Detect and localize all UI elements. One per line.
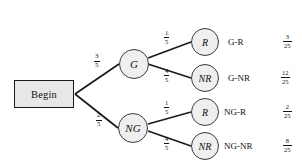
node-ng: NG [118, 113, 148, 143]
outcome-label-g-r: G-R [228, 37, 244, 47]
branch-prob-begin-g-den: 5 [94, 61, 100, 70]
begin-node-label: Begin [31, 89, 57, 100]
branch-prob-begin-ng: 2 5 [96, 112, 102, 128]
outcome-prob-g-nr-num: 12 [281, 70, 290, 77]
node-ng-nr: NR [191, 132, 219, 160]
begin-node: Begin [14, 80, 74, 108]
branch-prob-ng-nr-num: 4 [164, 136, 169, 143]
branch-prob-g-r-num: 1 [164, 30, 169, 37]
branch-prob-begin-ng-den: 5 [96, 120, 102, 129]
outcome-prob-ng-r-num: 2 [285, 104, 290, 111]
outcome-label-g-nr: G-NR [228, 73, 250, 83]
outcome-prob-g-r: 3 25 [283, 34, 292, 49]
outcome-prob-g-nr-den: 25 [281, 77, 290, 85]
branch-prob-ng-r-num: 1 [164, 100, 169, 107]
node-g-r-label: R [202, 37, 208, 48]
outcome-prob-g-nr: 12 25 [281, 70, 290, 85]
outcome-prob-ng-nr-num: 8 [285, 138, 290, 145]
node-g: G [119, 49, 149, 79]
node-g-r: R [191, 28, 219, 56]
outcome-prob-ng-nr-den: 25 [283, 145, 292, 153]
node-ng-r-label: R [202, 107, 208, 118]
edge-ng-nr [148, 131, 191, 146]
outcome-label-ng-nr: NG-NR [224, 141, 253, 151]
node-g-nr: NR [191, 64, 219, 92]
edge-g-r [148, 42, 191, 58]
node-ng-label: NG [125, 122, 140, 134]
outcome-prob-ng-r-den: 25 [283, 111, 292, 119]
branch-prob-begin-g-num: 3 [94, 53, 100, 60]
outcome-prob-g-r-den: 25 [283, 41, 292, 49]
branch-prob-ng-nr: 4 5 [164, 136, 169, 151]
branch-prob-ng-nr-den: 5 [164, 143, 169, 151]
outcome-prob-ng-r: 2 25 [283, 104, 292, 119]
branch-prob-g-nr-num: 4 [164, 68, 169, 75]
edge-ng-r [148, 112, 191, 124]
node-g-label: G [130, 58, 138, 70]
branch-prob-ng-r-den: 5 [164, 107, 169, 115]
branch-prob-ng-r: 1 5 [164, 100, 169, 115]
outcome-label-ng-r: NG-R [224, 107, 246, 117]
branch-prob-begin-g: 3 5 [94, 53, 100, 69]
tree-diagram: Begin G NG R NR R NR 3 5 2 5 1 5 4 5 1 5… [0, 0, 302, 164]
branch-prob-g-r: 1 5 [164, 30, 169, 45]
edge-g-nr [148, 64, 191, 78]
outcome-prob-g-r-num: 3 [285, 34, 290, 41]
node-ng-r: R [191, 98, 219, 126]
branch-prob-g-nr-den: 5 [164, 75, 169, 83]
branch-prob-g-r-den: 5 [164, 37, 169, 45]
branch-prob-g-nr: 4 5 [164, 68, 169, 83]
branch-prob-begin-ng-num: 2 [96, 112, 102, 119]
node-g-nr-label: NR [199, 73, 212, 84]
outcome-prob-ng-nr: 8 25 [283, 138, 292, 153]
node-ng-nr-label: NR [199, 141, 212, 152]
